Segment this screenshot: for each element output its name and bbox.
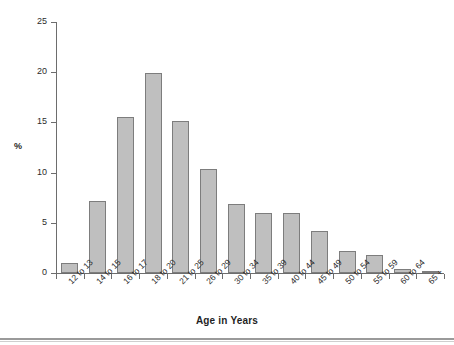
y-axis-tick: 15 <box>51 122 56 123</box>
bar <box>117 117 134 273</box>
bar <box>145 73 162 273</box>
y-axis-tick-label: 25 <box>37 15 47 28</box>
page-divider <box>0 338 454 340</box>
page-divider-shadow <box>0 341 454 342</box>
bar-chart-figure: % 0510152025 12 to 1314 to 1516 to 1718 … <box>0 0 454 345</box>
y-axis-tick-label: 20 <box>37 65 47 78</box>
y-axis-tick: 5 <box>51 223 56 224</box>
y-axis-line <box>56 22 57 274</box>
y-axis-tick-label: 5 <box>42 216 47 229</box>
y-axis-title: % <box>14 141 22 151</box>
bar <box>172 121 189 273</box>
y-axis-tick: 25 <box>51 22 56 23</box>
y-axis-tick: 10 <box>51 173 56 174</box>
bar <box>200 169 217 273</box>
y-axis-tick: 20 <box>51 72 56 73</box>
x-axis-title: Age in Years <box>0 315 454 326</box>
plot-area: 0510152025 <box>56 22 444 273</box>
y-axis-tick-label: 0 <box>42 266 47 279</box>
y-axis-tick-label: 10 <box>37 166 47 179</box>
y-axis-tick-label: 15 <box>37 115 47 128</box>
